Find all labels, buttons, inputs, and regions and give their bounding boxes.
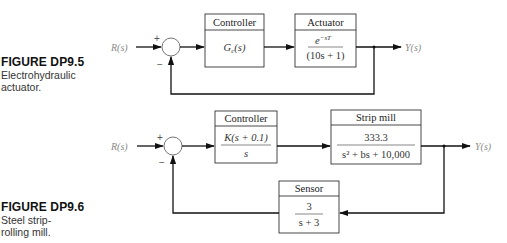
denominator: s + 3 [299, 217, 320, 228]
sensor-block: Sensor 3 s + 3 [279, 181, 339, 233]
denominator: (10s + 1) [306, 50, 345, 62]
block-diagrams: R(s) + − Controller Gc(s) Actuator e−sT … [0, 0, 507, 243]
summing-junction [162, 38, 180, 56]
input-label: R(s) [110, 141, 128, 153]
strip-mill-block: Strip mill 333.3 s² + bs + 10,000 [331, 110, 421, 164]
feedback-path-to-junction [173, 156, 279, 213]
numerator: 3 [306, 201, 311, 212]
block-header: Controller [213, 17, 257, 28]
output-label: Y(s) [405, 42, 422, 54]
input-label: R(s) [110, 42, 128, 54]
numerator: K(s + 0.1) [223, 132, 268, 144]
denominator: s² + bs + 10,000 [342, 149, 410, 160]
plus-sign: + [154, 33, 160, 44]
block-header: Actuator [307, 17, 344, 28]
block-header: Strip mill [356, 112, 396, 123]
output-label: Y(s) [475, 141, 492, 153]
diagram-dp9-6: R(s) + − Controller K(s + 0.1) s Strip m… [110, 110, 492, 233]
controller-block: Controller K(s + 0.1) s [215, 111, 277, 163]
minus-sign: − [157, 59, 163, 70]
block-header: Sensor [295, 183, 324, 194]
diagram-dp9-5: R(s) + − Controller Gc(s) Actuator e−sT … [110, 14, 422, 94]
summing-junction [164, 137, 182, 155]
controller-block: Controller Gc(s) [205, 14, 264, 67]
denominator: s [244, 148, 248, 159]
plus-sign: + [157, 132, 163, 143]
block-header: Controller [224, 113, 268, 124]
actuator-block: Actuator e−sT (10s + 1) [295, 14, 356, 67]
numerator: 333.3 [364, 132, 388, 143]
minus-sign: − [159, 157, 165, 168]
